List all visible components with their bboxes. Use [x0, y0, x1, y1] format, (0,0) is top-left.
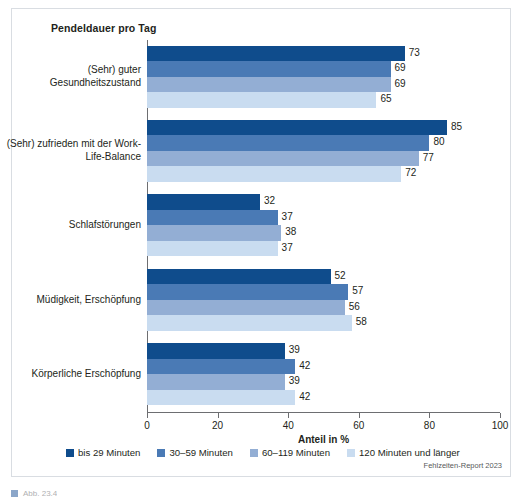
bar[interactable]	[147, 120, 447, 136]
bar-row: 69	[147, 61, 500, 77]
bar-value-label: 38	[281, 226, 296, 237]
bar-group: (Sehr) guterGesundheitszustand73696965	[147, 46, 500, 108]
x-tick-label: 40	[283, 420, 294, 431]
x-tick-label: 80	[424, 420, 435, 431]
x-tick-label: 20	[212, 420, 223, 431]
bar[interactable]	[147, 225, 281, 241]
bar-value-label: 42	[295, 391, 310, 402]
legend-swatch-icon	[66, 449, 74, 457]
x-tick-label: 100	[492, 420, 509, 431]
bar-row: 37	[147, 241, 500, 257]
category-label: Körperliche Erschöpfung	[0, 368, 141, 381]
bar-value-label: 32	[260, 195, 275, 206]
bar[interactable]	[147, 390, 295, 406]
caption-marker-icon	[11, 490, 18, 497]
x-tick-mark	[429, 413, 430, 418]
bar-group: Müdigkeit, Erschöpfung52575658	[147, 269, 500, 331]
bar-value-label: 85	[447, 121, 462, 132]
bar-row: 80	[147, 135, 500, 151]
bar[interactable]	[147, 374, 285, 390]
bar-value-label: 37	[278, 242, 293, 253]
legend-label: bis 29 Minuten	[78, 447, 140, 458]
bar-row: 52	[147, 269, 500, 285]
plot-area: (Sehr) guterGesundheitszustand73696965(S…	[147, 40, 500, 412]
bar[interactable]	[147, 194, 260, 210]
category-label: Müdigkeit, Erschöpfung	[0, 294, 141, 307]
bar[interactable]	[147, 241, 278, 257]
bar[interactable]	[147, 151, 419, 167]
legend-swatch-icon	[250, 449, 258, 457]
legend-item[interactable]: 60–119 Minuten	[250, 447, 330, 458]
bar-value-label: 39	[285, 344, 300, 355]
bar[interactable]	[147, 284, 348, 300]
bar[interactable]	[147, 135, 429, 151]
bar-value-label: 77	[419, 152, 434, 163]
bar-value-label: 58	[352, 316, 367, 327]
bar-row: 39	[147, 343, 500, 359]
bar-row: 38	[147, 225, 500, 241]
legend-label: 60–119 Minuten	[262, 447, 330, 458]
x-tick-mark	[288, 413, 289, 418]
bar-value-label: 69	[391, 78, 406, 89]
bar-row: 39	[147, 374, 500, 390]
bar-row: 42	[147, 359, 500, 375]
x-axis-title: Anteil in %	[147, 434, 500, 445]
category-label-line: Gesundheitszustand	[0, 77, 141, 90]
bar[interactable]	[147, 92, 376, 108]
legend-item[interactable]: 120 Minuten und länger	[347, 447, 460, 458]
bar-value-label: 52	[331, 270, 346, 281]
bar-row: 72	[147, 166, 500, 182]
legend-item[interactable]: bis 29 Minuten	[66, 447, 140, 458]
bar-group: (Sehr) zufrieden mit der Work-Life-Balan…	[147, 120, 500, 182]
bar-row: 32	[147, 194, 500, 210]
bar-group: Schlafstörungen32373837	[147, 194, 500, 256]
x-tick-mark	[218, 413, 219, 418]
bar[interactable]	[147, 61, 391, 77]
bar-value-label: 69	[391, 62, 406, 73]
legend-swatch-icon	[157, 449, 165, 457]
bar[interactable]	[147, 343, 285, 359]
bar[interactable]	[147, 359, 295, 375]
caption-text: Abb. 23.4	[23, 489, 57, 497]
category-label-line: (Sehr) guter	[0, 64, 141, 77]
chart-legend: bis 29 Minuten30–59 Minuten60–119 Minute…	[66, 447, 460, 458]
x-tick-label: 60	[353, 420, 364, 431]
bar-row: 73	[147, 46, 500, 62]
caption-sliver: Abb. 23.4	[11, 489, 57, 497]
bar-value-label: 73	[405, 47, 420, 58]
legend-swatch-icon	[347, 449, 355, 457]
bar-row: 56	[147, 300, 500, 316]
bar-row: 65	[147, 92, 500, 108]
legend-label: 30–59 Minuten	[169, 447, 232, 458]
x-tick-mark	[147, 413, 148, 418]
bar[interactable]	[147, 166, 401, 182]
category-label-line: Müdigkeit, Erschöpfung	[0, 294, 141, 307]
chart-title: Pendeldauer pro Tag	[51, 22, 157, 34]
category-label: (Sehr) guterGesundheitszustand	[0, 64, 141, 89]
bar-row: 57	[147, 284, 500, 300]
bar-row: 69	[147, 77, 500, 93]
bar-value-label: 56	[345, 301, 360, 312]
bar[interactable]	[147, 269, 331, 285]
bar-row: 85	[147, 120, 500, 136]
bar[interactable]	[147, 46, 405, 62]
bar[interactable]	[147, 210, 278, 226]
bar-value-label: 72	[401, 167, 416, 178]
bar-group: Körperliche Erschöpfung39423942	[147, 343, 500, 405]
bar[interactable]	[147, 300, 345, 316]
x-tick-mark	[500, 413, 501, 418]
category-label-line: Körperliche Erschöpfung	[0, 368, 141, 381]
bar-row: 42	[147, 390, 500, 406]
legend-item[interactable]: 30–59 Minuten	[157, 447, 232, 458]
legend-label: 120 Minuten und länger	[359, 447, 460, 458]
bar-value-label: 37	[278, 211, 293, 222]
category-label: (Sehr) zufrieden mit der Work-Life-Balan…	[0, 138, 141, 163]
bar-value-label: 39	[285, 375, 300, 386]
bar[interactable]	[147, 315, 352, 331]
bar-row: 37	[147, 210, 500, 226]
category-label: Schlafstörungen	[0, 219, 141, 232]
bar-row: 58	[147, 315, 500, 331]
bar[interactable]	[147, 77, 391, 93]
bar-value-label: 65	[376, 93, 391, 104]
x-axis-line	[147, 412, 500, 413]
